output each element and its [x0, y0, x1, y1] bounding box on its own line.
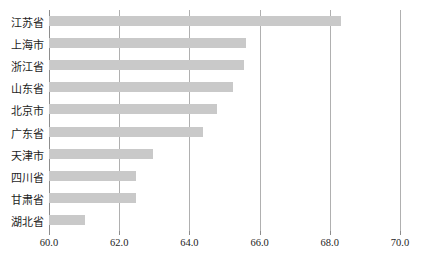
category-label: 上海市: [0, 36, 44, 52]
x-tick-mark: [260, 231, 261, 235]
category-label: 北京市: [0, 102, 44, 118]
bar: [49, 104, 217, 114]
x-tick-label: 70.0: [380, 237, 420, 248]
bar: [49, 16, 341, 26]
x-tick-label: 64.0: [169, 237, 209, 248]
gridline: [400, 10, 401, 231]
category-label: 四川省: [0, 169, 44, 185]
x-tick-mark: [330, 231, 331, 235]
bar: [49, 215, 85, 225]
plot-area: [49, 10, 400, 231]
category-label: 江苏省: [0, 14, 44, 30]
gridline: [330, 10, 331, 231]
x-tick-label: 62.0: [99, 237, 139, 248]
category-label: 湖北省: [0, 213, 44, 229]
category-label: 广东省: [0, 125, 44, 141]
x-tick-mark: [49, 231, 50, 235]
bar: [49, 60, 244, 70]
gridline: [260, 10, 261, 231]
bar: [49, 127, 203, 137]
x-tick-label: 60.0: [29, 237, 69, 248]
x-tick-mark: [119, 231, 120, 235]
bar: [49, 82, 233, 92]
bar: [49, 171, 136, 181]
x-tick-mark: [189, 231, 190, 235]
bar: [49, 149, 153, 159]
x-tick-label: 66.0: [240, 237, 280, 248]
category-label: 天津市: [0, 147, 44, 163]
x-tick-mark: [400, 231, 401, 235]
category-label: 甘肃省: [0, 191, 44, 207]
bar-chart: 江苏省上海市浙江省山东省北京市广东省天津市四川省甘肃省湖北省 60.062.06…: [0, 0, 423, 258]
bar: [49, 38, 246, 48]
x-tick-label: 68.0: [310, 237, 350, 248]
category-label: 浙江省: [0, 58, 44, 74]
bar: [49, 193, 136, 203]
category-label: 山东省: [0, 80, 44, 96]
